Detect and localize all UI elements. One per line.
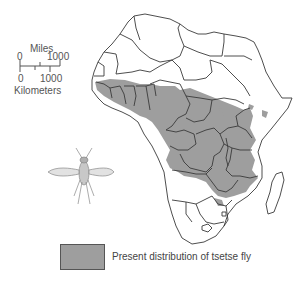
tsetse-fly-icon	[48, 148, 114, 204]
scale-km-start: 0	[18, 74, 24, 84]
scale-km-end: 1000	[40, 74, 62, 84]
lesotho-outline	[202, 224, 212, 232]
legend-label-tsetse: Present distribution of tsetse fly	[112, 251, 251, 262]
swaziland-outline	[222, 212, 226, 216]
madagascar-outline	[266, 172, 284, 214]
scale-km-label: Kilometers	[14, 86, 61, 96]
tsetse-distribution-area	[95, 79, 268, 206]
scale-miles-end: 1000	[47, 52, 69, 62]
legend-swatch-tsetse	[60, 244, 105, 270]
scale-miles-start: 0	[17, 52, 23, 62]
